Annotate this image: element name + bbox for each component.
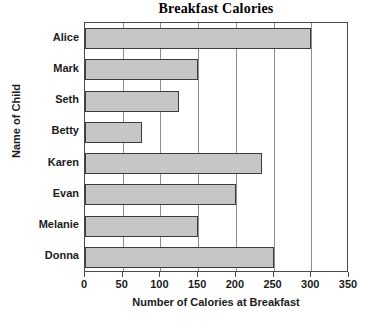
y-tick-label-karen: Karen [6, 156, 84, 168]
x-tick-mark [273, 272, 274, 277]
bars-layer [85, 23, 347, 271]
x-tick-label-250: 250 [253, 278, 293, 290]
x-tick-label-50: 50 [102, 278, 142, 290]
x-tick-label-350: 350 [328, 278, 368, 290]
x-tick-mark [310, 272, 311, 277]
y-tick-label-evan: Evan [6, 187, 84, 199]
y-tick-label-donna: Donna [6, 249, 84, 261]
x-tick-label-100: 100 [139, 278, 179, 290]
y-tick-label-mark: Mark [6, 62, 84, 74]
x-tick-mark [235, 272, 236, 277]
bar-row [85, 216, 347, 237]
x-axis-title: Number of Calories at Breakfast [84, 296, 348, 308]
x-tick-label-200: 200 [215, 278, 255, 290]
bar-seth [85, 91, 179, 112]
bar-row [85, 91, 347, 112]
x-tick-mark [159, 272, 160, 277]
bar-donna [85, 247, 274, 268]
bar-melanie [85, 216, 198, 237]
bar-mark [85, 59, 198, 80]
x-tick-mark [348, 272, 349, 277]
x-tick-label-150: 150 [177, 278, 217, 290]
y-tick-label-betty: Betty [6, 124, 84, 136]
plot-area [84, 22, 348, 272]
bar-row [85, 153, 347, 174]
bar-karen [85, 153, 262, 174]
x-tick-mark [84, 272, 85, 277]
bar-alice [85, 28, 311, 49]
y-tick-label-alice: Alice [6, 31, 84, 43]
chart-title: Breakfast Calories [84, 1, 348, 17]
x-tick-label-0: 0 [64, 278, 104, 290]
bar-evan [85, 184, 236, 205]
bar-row [85, 247, 347, 268]
bar-row [85, 184, 347, 205]
bar-chart-figure: Breakfast Calories Name of Child AliceMa… [0, 0, 373, 330]
y-tick-label-melanie: Melanie [6, 218, 84, 230]
bar-betty [85, 122, 142, 143]
bar-row [85, 122, 347, 143]
x-tick-label-300: 300 [290, 278, 330, 290]
x-tick-mark [122, 272, 123, 277]
bar-row [85, 28, 347, 49]
bar-row [85, 59, 347, 80]
y-tick-label-seth: Seth [6, 93, 84, 105]
x-tick-mark [197, 272, 198, 277]
